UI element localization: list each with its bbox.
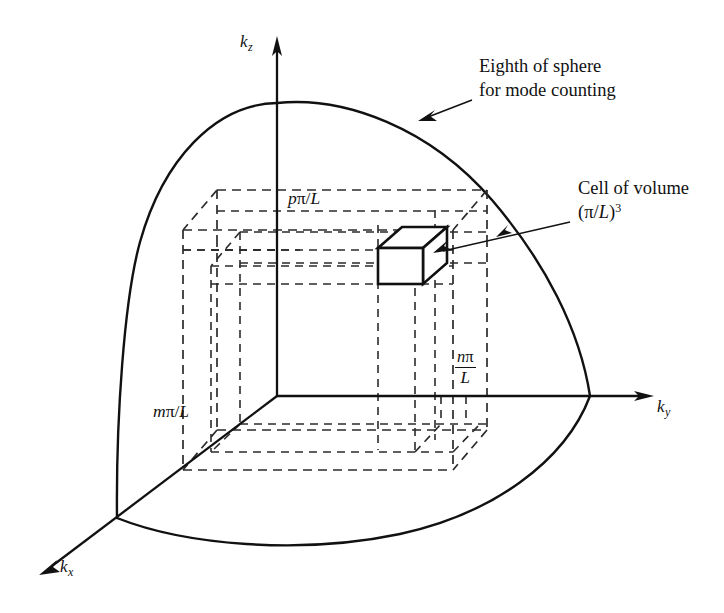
figure-root: kz ky kx Eighth of sphere for mode count… (0, 0, 724, 613)
m-pi-label-base: m (153, 401, 166, 421)
outer-box-diagonal-left-top (183, 190, 217, 230)
kz-axis-label: kz (240, 32, 253, 55)
sphere-octant-outline (117, 102, 590, 545)
cell-callout-L: L (599, 202, 609, 222)
n-pi-fraction-numerator: nπ (455, 348, 476, 368)
cell-callout-line-1: Cell of volume (578, 176, 689, 200)
n-pi-numerator-base: n (457, 347, 465, 366)
p-pi-label-L: L (310, 188, 320, 208)
cell-callout-pi: π (584, 202, 593, 222)
ky-axis-label-base: k (657, 397, 665, 416)
outer-box-diagonal-right-bottom (453, 430, 487, 470)
cell-callout-line-2: (π/L)3 (578, 200, 689, 224)
cell-callout-exponent: 3 (615, 201, 621, 215)
floor-depth-diagonal-b (453, 424, 480, 452)
n-pi-numerator-pi: π (465, 347, 473, 366)
dimension-label-n-pi-over-L: nπ L (455, 348, 476, 387)
n-pi-over-L-fraction: nπ L (455, 348, 476, 387)
outer-box-diagonal-right-top (453, 190, 487, 230)
sphere-callout-arrowhead (418, 110, 437, 121)
p-pi-label-pi: π (297, 188, 306, 208)
cell-callout-leader-line (443, 222, 570, 251)
m-pi-label-L: L (179, 401, 189, 421)
dimension-label-p-pi-over-L: pπ/L (288, 188, 320, 209)
ky-axis-label: ky (657, 397, 670, 420)
kx-axis-label-subscript: x (68, 565, 73, 579)
cell-callout-text: Cell of volume (π/L)3 (578, 176, 689, 225)
sphere-callout-line-2: for mode counting (479, 78, 616, 102)
p-pi-label-base: p (288, 188, 297, 208)
n-pi-fraction-denominator: L (455, 368, 476, 387)
inner-box-diagonal-left-top (211, 232, 240, 266)
floor-depth-diagonal-a (415, 424, 441, 452)
dimension-label-m-pi-over-L: mπ/L (153, 401, 189, 422)
ky-axis-label-subscript: y (665, 405, 670, 419)
cell-cube (378, 227, 447, 284)
cell-cube-front-face (378, 248, 423, 284)
kz-axis-label-base: k (240, 32, 248, 51)
sphere-callout-text: Eighth of sphere for mode counting (479, 54, 616, 103)
sphere-callout-line-1: Eighth of sphere (479, 54, 616, 78)
kx-axis-label-base: k (60, 557, 68, 576)
kz-axis-label-subscript: z (248, 40, 253, 54)
sphere-callout-leader-line (428, 100, 472, 117)
kx-axis-label: kx (60, 557, 73, 580)
